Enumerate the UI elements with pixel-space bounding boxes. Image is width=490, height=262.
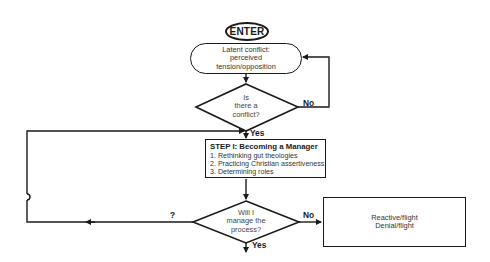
manage-q-line-3: process?	[216, 226, 276, 234]
manage-no-label: No	[303, 210, 314, 220]
step1-item-1: 1. Rethinking gut theologies	[210, 152, 322, 160]
manage-yes-label: Yes	[252, 240, 266, 250]
latent-conflict-node: Latent conflict: perceived tension/oppos…	[190, 43, 302, 74]
step1-item-3: 3. Determining roles	[210, 168, 322, 176]
step1-item-2: 2. Practicing Christian assertiveness	[210, 160, 322, 168]
conflict-q-line-3: conflict?	[216, 111, 276, 119]
manage-loop-label: ?	[170, 210, 175, 220]
conflict-no-label: No	[303, 98, 314, 108]
reactive-box: Reactive/flight Denial/flight	[323, 197, 466, 247]
reactive-line-2: Denial/flight	[324, 222, 465, 230]
enter-terminal: ENTER	[225, 22, 269, 41]
conflict-yes-label: Yes	[250, 128, 264, 138]
enter-label: ENTER	[230, 26, 265, 37]
step1-box: STEP I: Becoming a Manager 1. Rethinking…	[205, 139, 326, 178]
conflict-question: Is there a conflict?	[216, 94, 276, 119]
step1-title: STEP I: Becoming a Manager	[210, 143, 322, 152]
latent-line-3: tension/opposition	[191, 63, 301, 71]
manage-question: Will I manage the process?	[216, 209, 276, 234]
